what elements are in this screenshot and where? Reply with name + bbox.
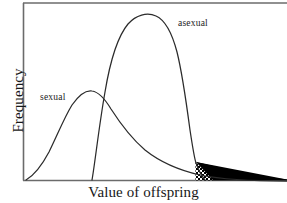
- sexual-curve-label: sexual: [40, 92, 65, 102]
- asexual-curve-label: asexual: [178, 18, 208, 28]
- figure-container: sexual asexual Frequency Value of offspr…: [0, 0, 287, 203]
- x-axis-label: Value of offspring: [0, 184, 287, 201]
- y-axis-label: Frequency: [10, 41, 27, 161]
- asexual-curve: [92, 14, 205, 180]
- sexual-curve: [26, 91, 287, 181]
